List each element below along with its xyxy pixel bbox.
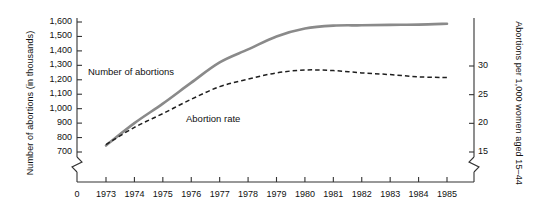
right-axis-line — [469, 18, 479, 182]
right-tick-label: 25 — [478, 89, 500, 99]
left-tick-label: 1,200 — [38, 74, 72, 84]
left-tick-label: 1,100 — [38, 88, 72, 98]
left-tick-label: 700 — [38, 146, 72, 156]
left-axis-line — [72, 18, 82, 182]
left-axis-ticks — [77, 22, 82, 152]
series-label-number-of-abortions: Number of abortions — [88, 66, 174, 77]
left-tick-label: 1,400 — [38, 45, 72, 55]
left-tick-label: 1,600 — [38, 16, 72, 26]
x-tick-label: 1985 — [430, 189, 464, 199]
left-tick-label: 1,500 — [38, 30, 72, 40]
left-tick-label: 1,300 — [38, 59, 72, 69]
abortion-trends-chart: Number of abortions (in thousands) Abort… — [0, 0, 536, 211]
right-tick-label: 15 — [478, 146, 500, 156]
left-tick-label: 900 — [38, 117, 72, 127]
chart-canvas — [0, 0, 536, 211]
left-tick-label: 800 — [38, 132, 72, 142]
right-axis-ticks — [469, 66, 474, 152]
series-label-abortion-rate: Abortion rate — [186, 113, 240, 124]
series-line-number-of-abortions — [106, 24, 447, 146]
right-tick-label: 30 — [478, 60, 500, 70]
axes-group — [72, 18, 479, 182]
x-axis-ticks — [106, 177, 447, 182]
x-origin-label: 0 — [60, 189, 94, 199]
left-tick-label: 1,000 — [38, 103, 72, 113]
right-tick-label: 20 — [478, 117, 500, 127]
